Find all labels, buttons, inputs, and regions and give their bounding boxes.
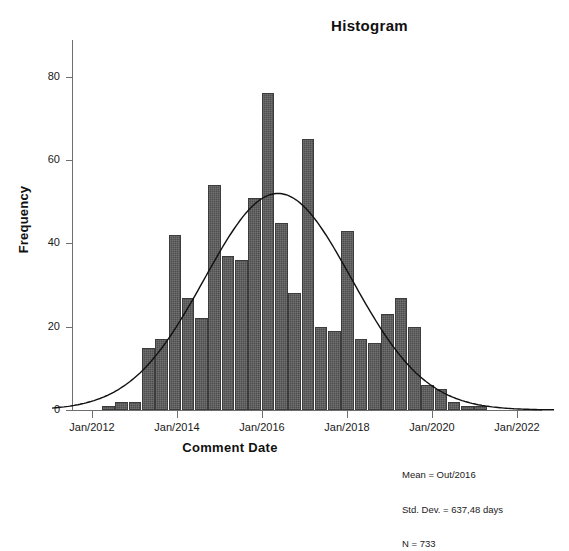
x-tick-Jan/2020	[432, 411, 433, 418]
bar-b03	[129, 402, 142, 410]
bar-b20	[355, 339, 368, 410]
bar-b04	[142, 348, 155, 410]
plot-area	[72, 56, 534, 410]
x-tick-label-Jan/2018: Jan/2018	[312, 421, 382, 433]
bar-b14	[275, 223, 288, 410]
x-tick-Jan/2022	[517, 411, 518, 418]
bar-b01	[102, 406, 115, 410]
bar-b06	[169, 235, 182, 410]
y-tick-label-40: 40	[0, 236, 60, 248]
x-tick-Jan/2012	[92, 411, 93, 418]
bar-b02	[115, 402, 128, 410]
y-axis-title: Frequency	[10, 150, 32, 310]
x-tick-Jan/2018	[347, 411, 348, 418]
y-tick-0	[66, 410, 73, 411]
x-tick-Jan/2016	[262, 411, 263, 418]
stat-mean: Mean = Out/2016	[402, 469, 503, 481]
bar-b29	[474, 406, 487, 410]
bar-b10	[222, 256, 235, 410]
statistics-annotation: Mean = Out/2016 Std. Dev. = 637,48 days …	[402, 446, 503, 551]
chart-title: Histogram	[0, 17, 569, 34]
bar-b05	[155, 339, 168, 410]
bar-b11	[235, 260, 248, 410]
chart-title-text: Histogram	[331, 17, 408, 34]
y-axis-title-text: Frequency	[16, 155, 31, 285]
bar-b17	[315, 327, 328, 410]
bar-b27	[448, 402, 461, 410]
y-tick-label-60: 60	[0, 153, 60, 165]
bar-b23	[395, 298, 408, 410]
x-tick-label-Jan/2014: Jan/2014	[142, 421, 212, 433]
bar-b26	[435, 389, 448, 410]
y-tick-label-80: 80	[0, 70, 60, 82]
bar-b16	[302, 139, 315, 410]
bar-b28	[461, 406, 474, 410]
bar-b24	[408, 327, 421, 410]
stat-n: N = 733	[402, 538, 503, 550]
bar-b18	[328, 331, 341, 410]
y-tick-label-20: 20	[0, 320, 60, 332]
x-tick-label-Jan/2016: Jan/2016	[227, 421, 297, 433]
bar-b12	[248, 198, 261, 410]
bar-b19	[341, 231, 354, 410]
bar-b22	[381, 314, 394, 410]
bar-b09	[208, 185, 221, 410]
bar-b25	[421, 385, 434, 410]
bar-b21	[368, 343, 381, 410]
x-axis-title: Comment Date	[60, 440, 400, 455]
x-axis-line	[72, 410, 542, 411]
bar-b15	[288, 293, 301, 410]
bar-b13	[262, 93, 275, 410]
y-tick-label-0: 0	[0, 403, 60, 415]
x-tick-label-Jan/2022: Jan/2022	[482, 421, 552, 433]
bar-series	[72, 56, 534, 410]
bar-b08	[195, 318, 208, 410]
x-tick-label-Jan/2012: Jan/2012	[57, 421, 127, 433]
stat-std-dev: Std. Dev. = 637,48 days	[402, 504, 503, 516]
x-tick-label-Jan/2020: Jan/2020	[397, 421, 467, 433]
bar-b07	[182, 298, 195, 410]
x-tick-Jan/2014	[177, 411, 178, 418]
